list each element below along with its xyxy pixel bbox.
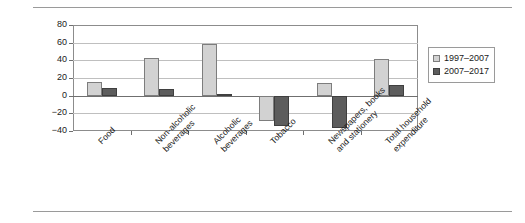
x-axis-tick-mark (131, 131, 132, 135)
chart-legend: 1997–2007 2007–2017 (428, 47, 495, 83)
bar (144, 58, 159, 96)
legend-label-2007-2017: 2007–2017 (444, 67, 489, 76)
top-divider-rule (33, 7, 512, 8)
bar-chart-figure: Percentage change 806040200−20−40 FoodNo… (0, 0, 525, 223)
y-axis-tick-mark (69, 131, 73, 132)
gridline (73, 43, 418, 44)
bar (159, 89, 174, 96)
legend-label-1997-2007: 1997–2007 (444, 54, 489, 63)
gridline (73, 78, 418, 79)
y-axis-tick-label: 40 (43, 55, 67, 64)
gridline (73, 60, 418, 61)
y-axis-tick-label: 20 (43, 73, 67, 82)
y-axis-tick-label: −20 (43, 108, 67, 117)
bar (217, 94, 232, 96)
zero-baseline (73, 96, 418, 97)
y-axis-tick-label: −40 (43, 126, 67, 135)
legend-item-series-1: 1997–2007 (433, 52, 489, 65)
y-axis-tick-label: 60 (43, 38, 67, 47)
x-axis-tick-mark (303, 131, 304, 135)
legend-swatch-2007-2017-icon (433, 68, 440, 75)
y-axis-tick-label: 80 (43, 20, 67, 29)
bar (317, 83, 332, 95)
bottom-divider-rule (33, 211, 512, 212)
bar (202, 44, 217, 96)
bar (389, 85, 404, 96)
bar (87, 82, 102, 96)
legend-item-series-2: 2007–2017 (433, 65, 489, 78)
bar (259, 96, 274, 122)
legend-swatch-1997-2007-icon (433, 55, 440, 62)
bar (102, 88, 117, 96)
y-axis-tick-label: 0 (43, 91, 67, 100)
